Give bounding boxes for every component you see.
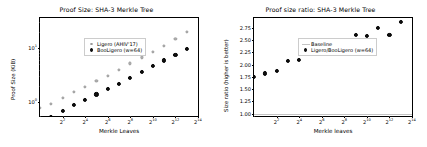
x-tick-minor: [299, 116, 300, 117]
x-tick-minor: [85, 116, 86, 117]
plot-area-right: [254, 18, 412, 116]
data-point-ligero: [163, 44, 166, 47]
x-tick-label: 28: [127, 119, 133, 125]
x-tick-minor: [254, 116, 255, 117]
x-tick-minor: [130, 116, 131, 117]
y-tick-label: 1.50: [240, 86, 251, 92]
x-tick-minor: [277, 116, 278, 117]
data-point-ligero: [185, 31, 188, 34]
y-tick-minor: [39, 22, 40, 23]
legend-item-booligero: BooLigero (w=64): [87, 47, 142, 53]
legend-left: Ligero (AHIV'17) BooLigero (w=64): [84, 38, 146, 56]
x-tick-label: 22: [60, 119, 66, 125]
x-tick-label: 24: [82, 119, 88, 125]
data-point-booligero: [117, 82, 121, 86]
data-point-booligero: [185, 47, 189, 51]
x-axis-label-left: Merkle Leaves: [39, 128, 199, 134]
y-tick: [252, 65, 254, 66]
x-tick-label: 24: [296, 119, 302, 125]
data-point-ligero: [140, 56, 143, 59]
y-tick-minor: [39, 76, 40, 77]
y-tick-minor: [39, 56, 40, 57]
y-tick-label: 1.75: [240, 74, 251, 80]
figure-two-panel-scatter: Proof Size: SHA-3 Merkle Tree 22 24 26 2…: [0, 0, 427, 147]
legend-marker-dot-icon: [87, 48, 96, 51]
y-axis-label-left: Proof Size (KiB): [10, 59, 16, 100]
legend-item-ratio: Ligero/BooLigero (w=64): [301, 47, 373, 53]
data-point-booligero: [94, 92, 98, 96]
data-point-ratio: [387, 33, 391, 37]
data-point-ligero: [151, 50, 154, 53]
data-point-ligero: [40, 106, 42, 109]
legend-label: BooLigero (w=64): [96, 47, 142, 53]
chart-title-right: Proof size ratio: SHA-3 Merkle Tree: [214, 6, 427, 13]
x-tick-minor: [153, 116, 154, 117]
data-point-ligero: [61, 96, 64, 99]
y-tick-minor: [39, 32, 40, 33]
data-point-booligero: [72, 103, 76, 107]
y-tick: [252, 52, 254, 53]
y-tick-label: 2.00: [240, 62, 251, 68]
axes-left: 22 24 26 28 210 212 214 100 101 Ligero (…: [39, 17, 199, 117]
data-point-booligero: [60, 109, 64, 113]
chart-title-left: Proof Size: SHA-3 Merkle Tree: [0, 6, 213, 13]
y-tick-label: 100: [28, 99, 37, 105]
y-tick-label: 2.50: [240, 37, 251, 43]
data-point-ratio: [254, 75, 256, 79]
x-tick-minor: [40, 116, 41, 117]
x-tick-label: 28: [341, 119, 347, 125]
panel-proof-size: Proof Size: SHA-3 Merkle Tree 22 24 26 2…: [0, 0, 213, 147]
y-tick: [38, 48, 40, 49]
y-tick-label: 1.25: [240, 98, 251, 104]
y-tick-minor: [39, 86, 40, 87]
data-point-ligero: [174, 38, 177, 41]
plot-area-left: [40, 18, 198, 116]
axes-right: 22 24 26 28 210 212 214 Baseline Ligero/…: [253, 17, 413, 117]
y-tick-minor: [39, 64, 40, 65]
y-tick-minor: [39, 53, 40, 54]
x-tick-label: 26: [319, 119, 325, 125]
x-tick-label: 210: [149, 119, 157, 125]
data-point-ligero: [95, 80, 98, 83]
x-tick-minor: [322, 116, 323, 117]
y-tick-label: 2.75: [240, 25, 251, 31]
x-tick-label: 210: [363, 119, 371, 125]
x-tick-minor: [367, 116, 368, 117]
y-tick-minor: [39, 50, 40, 51]
data-point-booligero: [49, 114, 53, 116]
x-tick-minor: [63, 116, 64, 117]
x-tick-label: 212: [171, 119, 179, 125]
y-tick: [252, 89, 254, 90]
data-point-ligero: [72, 90, 75, 93]
x-tick-label: 212: [385, 119, 393, 125]
baseline-line: [254, 114, 412, 115]
x-tick-minor: [175, 116, 176, 117]
y-tick: [252, 77, 254, 78]
data-point-ratio: [286, 59, 290, 63]
y-tick: [38, 102, 40, 103]
data-point-booligero: [128, 76, 132, 80]
data-point-booligero: [139, 70, 143, 74]
x-tick-minor: [344, 116, 345, 117]
data-point-ratio: [399, 20, 403, 24]
y-axis-label-right: Size ratio (higher is better): [223, 39, 229, 112]
y-tick: [252, 114, 254, 115]
x-tick-label: 26: [105, 119, 111, 125]
data-point-ligero: [129, 62, 132, 65]
legend-label: Ligero/BooLigero (w=64): [310, 47, 373, 53]
data-point-booligero: [106, 87, 110, 91]
y-tick-minor: [39, 60, 40, 61]
data-point-ligero: [50, 102, 53, 105]
y-tick-label: 101: [28, 45, 37, 51]
data-point-ratio: [353, 33, 357, 37]
y-tick: [252, 101, 254, 102]
data-point-booligero: [162, 58, 166, 62]
data-point-ligero: [117, 68, 120, 71]
data-point-ligero: [84, 85, 87, 88]
data-point-ratio: [297, 58, 301, 62]
x-tick-minor: [389, 116, 390, 117]
legend-marker-dot-icon: [301, 48, 310, 51]
legend-marker-dot-icon: [87, 43, 96, 46]
data-point-ratio: [274, 69, 278, 73]
y-tick-label: 2.25: [240, 49, 251, 55]
